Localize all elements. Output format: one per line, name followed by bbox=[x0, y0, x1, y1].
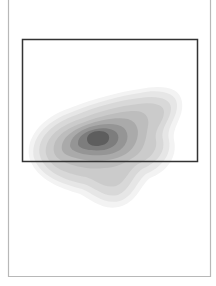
density-contour-plot bbox=[0, 0, 216, 286]
density-contours bbox=[29, 87, 182, 208]
